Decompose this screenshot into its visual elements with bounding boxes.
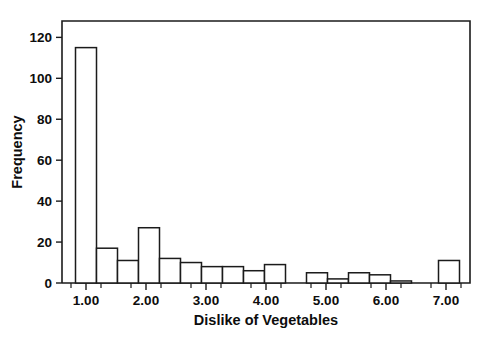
histogram-svg: 020406080100120 1.002.003.004.005.006.00… bbox=[0, 0, 484, 340]
y-tick-label: 100 bbox=[29, 71, 52, 86]
y-tick-label: 0 bbox=[44, 276, 52, 291]
histogram-bar bbox=[391, 281, 412, 283]
y-axis-title: Frequency bbox=[9, 115, 25, 188]
x-tick-label: 6.00 bbox=[373, 293, 399, 308]
histogram-bar bbox=[160, 258, 181, 283]
histogram-bar bbox=[307, 273, 328, 283]
x-tick-label: 4.00 bbox=[253, 293, 279, 308]
histogram-bar bbox=[265, 265, 286, 283]
x-tick-label: 7.00 bbox=[433, 293, 459, 308]
frame-path bbox=[62, 21, 470, 283]
histogram-bar bbox=[202, 267, 223, 283]
y-tick-label: 40 bbox=[37, 194, 52, 209]
x-axis-title: Dislike of Vegetables bbox=[194, 312, 338, 328]
histogram-bar bbox=[139, 228, 160, 283]
histogram-bar bbox=[328, 279, 349, 283]
x-tick-label: 5.00 bbox=[313, 293, 339, 308]
y-tick-label: 120 bbox=[29, 30, 52, 45]
histogram-figure: 020406080100120 1.002.003.004.005.006.00… bbox=[0, 0, 484, 340]
x-tick-label: 2.00 bbox=[133, 293, 159, 308]
plot-frame bbox=[62, 21, 470, 283]
y-tick-label: 20 bbox=[37, 235, 52, 250]
y-tick-label: 80 bbox=[37, 112, 52, 127]
histogram-bar bbox=[76, 48, 97, 283]
histogram-bar bbox=[223, 267, 244, 283]
histogram-bar bbox=[97, 248, 118, 283]
histogram-bar bbox=[439, 260, 460, 283]
histogram-bar bbox=[370, 275, 391, 283]
x-axis: 1.002.003.004.005.006.007.00 bbox=[71, 283, 461, 308]
x-tick-label: 3.00 bbox=[193, 293, 219, 308]
y-axis: 020406080100120 bbox=[29, 30, 62, 291]
histogram-bar bbox=[244, 271, 265, 283]
bars-group bbox=[76, 48, 460, 283]
histogram-bar bbox=[118, 260, 139, 283]
x-tick-label: 1.00 bbox=[73, 293, 99, 308]
y-tick-label: 60 bbox=[37, 153, 52, 168]
histogram-bar bbox=[181, 263, 202, 283]
histogram-bar bbox=[349, 273, 370, 283]
